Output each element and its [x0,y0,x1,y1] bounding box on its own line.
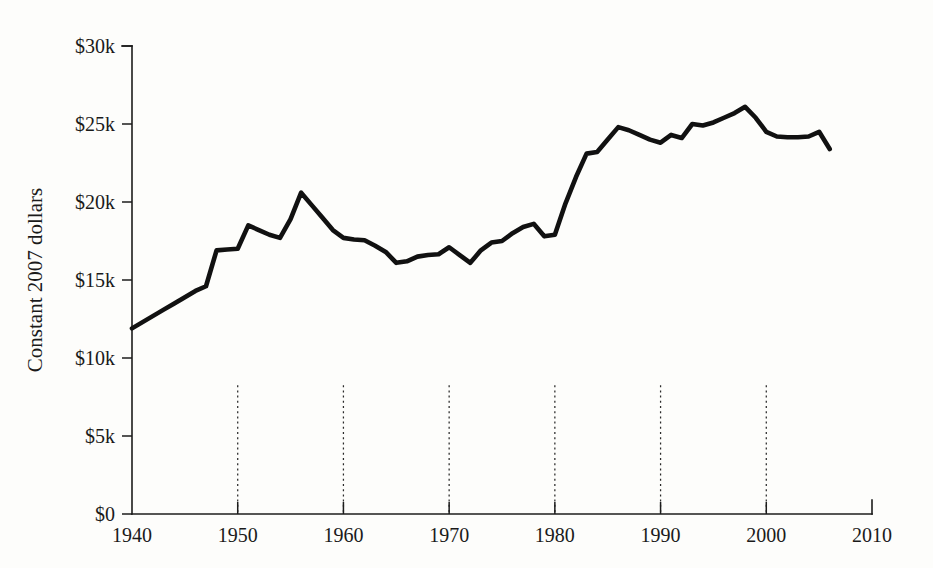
data-series-group [132,107,830,329]
x-tick-label-2000: 2000 [746,524,786,546]
line-chart: $0$5k$10k$15k$20k$25k$30k 19401950196019… [0,0,933,568]
x-tick-labels: 19401950196019701980199020002010 [112,524,892,546]
y-tick-label-$5k: $5k [85,425,115,447]
axes [122,46,872,514]
y-tick-label-$15k: $15k [75,269,115,291]
y-tick-label-$25k: $25k [75,113,115,135]
y-tick-label-$10k: $10k [75,347,115,369]
gridlines [238,382,767,512]
y-axis-title: Constant 2007 dollars [23,188,47,372]
y-tick-label-$0: $0 [95,503,115,525]
x-tick-label-1990: 1990 [641,524,681,546]
y-tick-labels: $0$5k$10k$15k$20k$25k$30k [75,35,115,525]
x-tick-label-2010: 2010 [852,524,892,546]
y-tick-label-$20k: $20k [75,191,115,213]
x-tick-label-1970: 1970 [429,524,469,546]
y-tick-marks [122,46,132,514]
data-line-constant-2007-dollars [132,107,830,329]
x-tick-label-1980: 1980 [535,524,575,546]
x-tick-label-1940: 1940 [112,524,152,546]
x-tick-label-1960: 1960 [323,524,363,546]
x-tick-label-1950: 1950 [218,524,258,546]
x-tick-marks [238,502,767,514]
y-tick-label-$30k: $30k [75,35,115,57]
chart-figure: $0$5k$10k$15k$20k$25k$30k 19401950196019… [0,0,933,568]
